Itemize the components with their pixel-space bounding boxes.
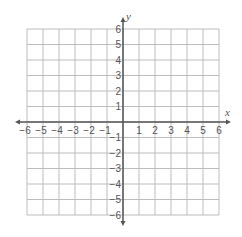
y-tick-label: −6 [110,210,122,221]
x-tick-label: 2 [152,125,158,136]
x-tick-label: −6 [19,125,31,136]
x-tick-label: 1 [136,125,142,136]
x-tick-label: 3 [168,125,174,136]
x-axis-right-arrow-icon [226,120,231,125]
y-tick-label: 6 [115,24,121,35]
y-tick-label: 3 [115,70,121,81]
y-tick-label: −1 [110,132,122,143]
x-tick-label: −3 [67,125,79,136]
y-axis-label: y [125,10,131,22]
y-tick-label: −4 [110,179,122,190]
x-tick-label: −2 [83,125,95,136]
y-axis-down-arrow-icon [121,221,126,226]
y-tick-label: 2 [115,86,121,97]
coordinate-plane: −6−5−4−3−2−1123456 654321−1−2−3−4−5−6 x … [0,0,242,237]
y-axis-up-arrow-icon [121,17,126,22]
x-tick-label: 5 [200,125,206,136]
x-tick-label: 6 [216,125,222,136]
x-tick-label: −5 [35,125,47,136]
y-tick-label: −5 [110,194,122,205]
x-tick-label: −4 [51,125,63,136]
y-tick-label: 5 [115,39,121,50]
x-axis-left-arrow-icon [15,120,20,125]
y-tick-label: 4 [115,55,121,66]
y-tick-label: −2 [110,148,122,159]
y-tick-label: 1 [115,101,121,112]
x-tick-label: 4 [184,125,190,136]
x-axis-label: x [224,106,230,118]
axes [15,17,231,226]
y-tick-label: −3 [110,163,122,174]
